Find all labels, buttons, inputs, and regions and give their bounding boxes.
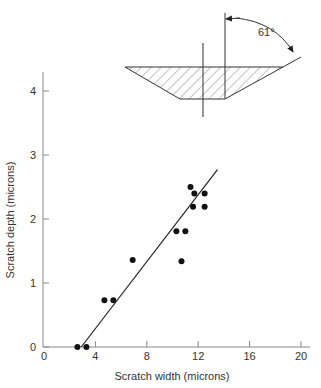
data-point [130, 257, 136, 263]
data-series [74, 170, 217, 350]
data-point [202, 204, 208, 210]
y-tick-label: 4 [30, 85, 36, 97]
angle-label: 61° [258, 26, 275, 38]
y-axis-label: Scratch depth (microns) [4, 162, 16, 279]
fit-line [81, 170, 217, 347]
x-tick-label: 20 [295, 350, 307, 362]
x-tick-label: 4 [92, 350, 98, 362]
y-tick-label: 3 [30, 149, 36, 161]
chart: 61° 01234 048121620 Scratch width (micro… [0, 0, 321, 388]
y-tick-label: 0 [30, 341, 36, 353]
axes [43, 72, 310, 347]
x-axis-ticks: 048121620 [41, 341, 307, 362]
data-point [191, 190, 197, 196]
data-point [178, 258, 184, 264]
data-point [187, 184, 193, 190]
x-tick-label: 16 [243, 350, 255, 362]
y-tick-label: 1 [30, 277, 36, 289]
data-point [182, 228, 188, 234]
y-tick-label: 2 [30, 213, 36, 225]
scratch-profile-diagram: 61° [125, 13, 301, 117]
x-tick-label: 0 [41, 350, 47, 362]
data-point [74, 344, 80, 350]
y-axis-ticks: 01234 [30, 85, 49, 353]
data-point [101, 297, 107, 303]
data-point [83, 344, 89, 350]
data-point [202, 190, 208, 196]
x-axis-label: Scratch width (microns) [115, 370, 230, 382]
x-tick-label: 12 [192, 350, 204, 362]
x-tick-label: 8 [144, 350, 150, 362]
data-point [173, 228, 179, 234]
